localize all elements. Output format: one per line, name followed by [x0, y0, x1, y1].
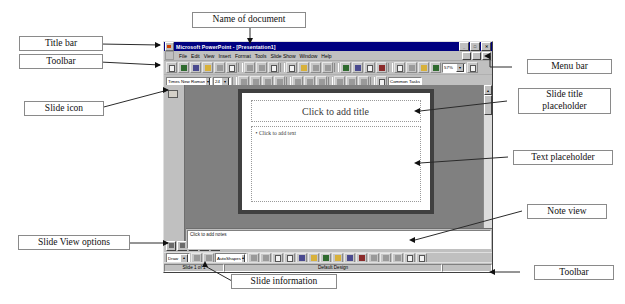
callout-text-placeholder: Text placeholder: [513, 150, 613, 165]
zoom-combobox[interactable]: 57% ▾: [442, 63, 466, 73]
slide-stage: Click to add title • Click to add text ▴…: [185, 85, 492, 250]
redo-icon[interactable]: [322, 62, 333, 73]
new-icon[interactable]: [166, 62, 177, 73]
title-bar: Microsoft PowerPoint - [Presentation1] _…: [164, 42, 492, 51]
zoom-value: 57%: [444, 65, 453, 70]
menu-bar: File Edit View Insert Format Tools Slide…: [164, 51, 492, 61]
scroll-track[interactable]: [484, 115, 492, 240]
arrowhead-title-bar: [155, 42, 161, 48]
slide-title-placeholder[interactable]: Click to add title: [251, 100, 421, 122]
menu-item-file[interactable]: File: [179, 53, 187, 59]
save-icon[interactable]: [190, 62, 201, 73]
animation-effects-icon[interactable]: [430, 62, 441, 73]
arrowhead-slide-title-placeholder: [414, 108, 420, 114]
doc-minimize-button[interactable]: [462, 52, 471, 60]
toolbar-separator-4: [388, 63, 393, 72]
callout-slide-view-options: Slide View options: [18, 235, 130, 250]
arrowhead-slide-icon: [163, 87, 169, 93]
callout-slide-icon: Slide icon: [24, 101, 104, 116]
toolbar-separator-3: [334, 63, 339, 72]
restore-button[interactable]: □: [470, 42, 480, 51]
print-preview-icon[interactable]: [226, 62, 237, 73]
slide-information: Slide 1 of 1: [164, 264, 224, 272]
format-painter-icon[interactable]: [298, 62, 309, 73]
cut-icon[interactable]: [256, 62, 267, 73]
callout-toolbar-left: Toolbar: [19, 54, 103, 69]
slide-text-placeholder[interactable]: • Click to add text: [251, 126, 421, 202]
print-icon[interactable]: [214, 62, 225, 73]
callout-note-view: Note view: [527, 204, 607, 219]
callout-name-of-document: Name of document: [192, 12, 306, 28]
menu-item-insert[interactable]: Insert: [218, 53, 231, 59]
vertical-scrollbar[interactable]: ▴ ▾: [483, 85, 492, 250]
menu-item-window[interactable]: Window: [300, 53, 318, 59]
toolbar-separator-2: [280, 63, 285, 72]
callout-slide-information: Slide information: [231, 274, 337, 289]
arrowhead-menu-bar: [484, 53, 490, 59]
menu-item-tools[interactable]: Tools: [255, 53, 267, 59]
menu-item-format[interactable]: Format: [235, 53, 251, 59]
arrowhead-name-of-document: [247, 38, 253, 44]
toolbar-separator: [238, 63, 243, 72]
slide-icon[interactable]: [168, 90, 178, 98]
design-name: Default Design: [224, 264, 442, 272]
tables-and-borders-icon[interactable]: [352, 62, 363, 73]
status-bar: Slide 1 of 1 Default Design: [164, 262, 492, 272]
arrowhead-toolbar-left: [155, 62, 161, 68]
show-formatting-icon[interactable]: [418, 62, 429, 73]
insert-table-icon[interactable]: [364, 62, 375, 73]
arrowhead-note-view: [409, 237, 415, 243]
work-area: Click to add title • Click to add text ▴…: [164, 85, 492, 250]
minimize-button[interactable]: _: [459, 42, 469, 51]
arrowhead-text-placeholder: [414, 160, 420, 166]
slide-canvas[interactable]: Click to add title • Click to add text: [242, 93, 430, 210]
callout-menu-bar: Menu bar: [527, 59, 612, 74]
leader-toolbar-left: [100, 62, 160, 65]
draw-label: Draw: [168, 256, 178, 261]
doc-restore-button[interactable]: [472, 52, 481, 60]
mail-icon[interactable]: [202, 62, 213, 73]
insert-hyperlink-icon[interactable]: [340, 62, 351, 73]
leader-slide-icon: [100, 90, 168, 108]
arrowhead-toolbar-right: [489, 269, 495, 275]
slide-frame: Click to add title • Click to add text: [238, 89, 434, 214]
menu-item-edit[interactable]: Edit: [191, 53, 200, 59]
font-size-value: 24: [215, 79, 220, 84]
close-button[interactable]: ✕: [481, 42, 491, 51]
font-name-value: Times New Roman: [168, 79, 205, 84]
insert-chart-icon[interactable]: [376, 62, 387, 73]
outline-pane[interactable]: [164, 85, 185, 250]
notes-pane: Click to add notes: [186, 228, 492, 250]
bullet-glyph: •: [256, 130, 258, 136]
powerpoint-window: Microsoft PowerPoint - [Presentation1] _…: [163, 41, 493, 273]
copy-icon[interactable]: [268, 62, 279, 73]
callout-slide-title-placeholder-line1: Slide title: [546, 89, 583, 101]
paste-icon[interactable]: [286, 62, 297, 73]
scroll-up-icon[interactable]: ▴: [484, 85, 492, 95]
leader-title-bar: [100, 44, 160, 45]
menu-item-help[interactable]: Help: [321, 53, 331, 59]
window-controls: _ □ ✕: [459, 42, 491, 51]
new-slide-icon[interactable]: [394, 62, 405, 73]
common-tasks-label: Common Tasks: [390, 79, 420, 84]
scroll-thumb[interactable]: [484, 95, 492, 115]
leader-menu-bar: [490, 56, 512, 67]
powerpoint-icon[interactable]: [165, 42, 174, 51]
document-icon[interactable]: [165, 51, 174, 60]
callout-title-bar: Title bar: [19, 36, 103, 51]
expand-all-icon[interactable]: [406, 62, 417, 73]
menu-item-view[interactable]: View: [204, 53, 215, 59]
menu-item-slide-show[interactable]: Slide Show: [270, 53, 295, 59]
notes-placeholder[interactable]: Click to add notes: [187, 230, 491, 249]
callout-slide-title-placeholder: Slide title placeholder: [518, 88, 611, 114]
slide-text-placeholder-label: Click to add text: [259, 130, 296, 136]
undo-icon[interactable]: [310, 62, 321, 73]
spelling-icon[interactable]: [244, 62, 255, 73]
autoshapes-label: AutoShapes: [217, 256, 241, 261]
callout-slide-title-placeholder-line2: placeholder: [542, 101, 586, 113]
chevron-down-icon[interactable]: ▾: [456, 63, 464, 72]
callout-toolbar-right: Toolbar: [534, 265, 614, 280]
window-title: Microsoft PowerPoint - [Presentation1]: [176, 44, 276, 50]
open-icon[interactable]: [178, 62, 189, 73]
office-assistant-icon[interactable]: [467, 62, 478, 73]
